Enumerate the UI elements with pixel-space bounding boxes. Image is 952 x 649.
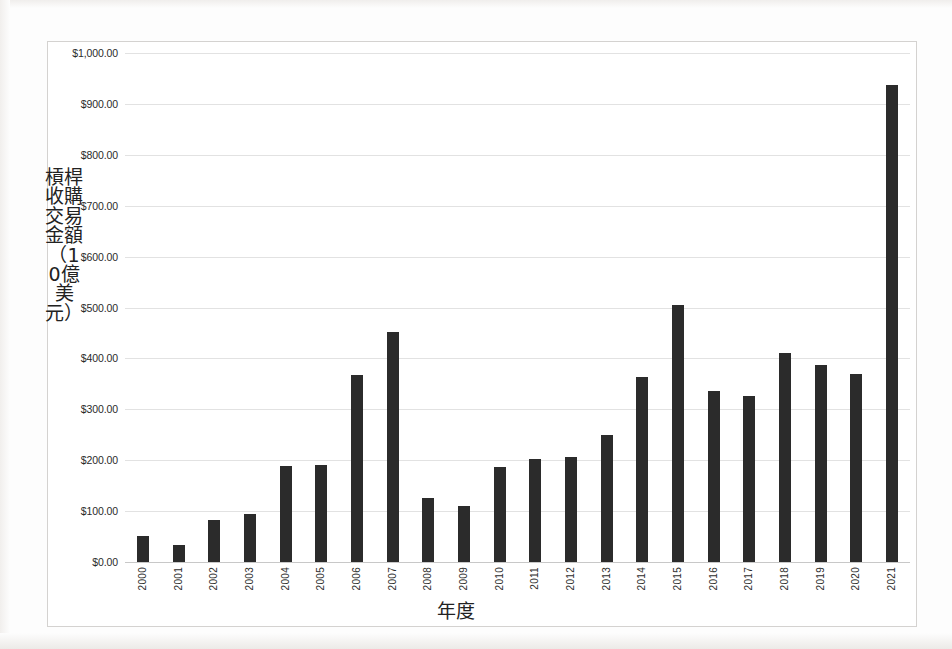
x-axis-tick-label: 2020: [850, 567, 861, 590]
bar-2013: [601, 435, 613, 562]
gridline: [125, 409, 910, 410]
y-axis-tick-label: $400.00: [81, 352, 118, 364]
x-axis-tick-label: 2000: [137, 567, 148, 590]
bar-2005: [315, 465, 327, 562]
gridline: [125, 460, 910, 461]
x-axis-tick-label: 2016: [708, 567, 719, 590]
x-axis-tick-label: 2001: [173, 567, 184, 590]
y-axis-tick-label: $900.00: [81, 98, 118, 110]
bar-2006: [351, 375, 363, 562]
gridline: [125, 358, 910, 359]
gridline: [125, 308, 910, 309]
gridline: [125, 511, 910, 512]
gridline: [125, 257, 910, 258]
x-axis-title: 年度: [0, 596, 952, 623]
x-axis-tick-label: 2014: [636, 567, 647, 590]
gridline: [125, 206, 910, 207]
scan-edge-top: [0, 0, 952, 8]
x-axis-tick-label: 2005: [315, 567, 326, 590]
x-axis-tick-label: 2009: [458, 567, 469, 590]
x-axis-tick-label: 2017: [743, 567, 754, 590]
y-axis-tick-label: $600.00: [81, 251, 118, 263]
bar-2004: [280, 466, 292, 562]
y-axis-tick-label: $500.00: [81, 302, 118, 314]
x-axis-title-text: 年度: [437, 600, 475, 622]
bar-2019: [815, 365, 827, 562]
bar-2014: [636, 377, 648, 562]
bar-2002: [208, 520, 220, 562]
scan-edge-left: [0, 0, 10, 649]
y-axis-tick-label: $800.00: [81, 149, 118, 161]
plot-area: [125, 53, 910, 562]
x-axis-tick-label: 2012: [565, 567, 576, 590]
gridline: [125, 53, 910, 54]
gridline: [125, 104, 910, 105]
bar-2010: [494, 467, 506, 562]
gridline: [125, 155, 910, 156]
x-axis-tick-label: 2004: [280, 567, 291, 590]
x-axis-tick-label: 2002: [208, 567, 219, 590]
x-axis-tick-label: 2021: [886, 567, 897, 590]
gridline: [125, 562, 910, 563]
y-axis-tick-label: $1,000.00: [72, 47, 118, 59]
bar-2020: [850, 374, 862, 562]
page-root: 槓桿收購交易金額（10億美元） $0.00$100.00$200.00$300.…: [0, 0, 952, 649]
bar-2003: [244, 514, 256, 562]
bar-2008: [422, 498, 434, 562]
y-axis-tick-label: $100.00: [81, 505, 118, 517]
bar-2016: [708, 391, 720, 562]
bar-2018: [779, 353, 791, 562]
bar-2000: [137, 536, 149, 562]
bar-2009: [458, 506, 470, 562]
x-axis-tick-label: 2018: [779, 567, 790, 590]
x-axis-tick-label: 2019: [815, 567, 826, 590]
scan-edge-bottom: [0, 633, 952, 649]
x-axis-tick-label: 2007: [387, 567, 398, 590]
y-axis-tick-labels: $0.00$100.00$200.00$300.00$400.00$500.00…: [60, 0, 118, 649]
x-axis-tick-label: 2003: [244, 567, 255, 590]
y-axis-tick-label: $200.00: [81, 454, 118, 466]
x-axis-tick-label: 2013: [601, 567, 612, 590]
y-axis-tick-label: $700.00: [81, 200, 118, 212]
x-axis-tick-label: 2015: [672, 567, 683, 590]
bar-2017: [743, 396, 755, 562]
x-axis-tick-label: 2008: [422, 567, 433, 590]
bar-2011: [529, 459, 541, 562]
x-axis-tick-label: 2010: [494, 567, 505, 590]
y-axis-tick-label: $300.00: [81, 403, 118, 415]
bar-2021: [886, 85, 898, 562]
x-axis-tick-label: 2006: [351, 567, 362, 590]
bar-2015: [672, 305, 684, 562]
y-axis-tick-label: $0.00: [92, 556, 118, 568]
bar-2007: [387, 332, 399, 562]
x-axis-tick-label: 2011: [529, 567, 540, 590]
bar-2012: [565, 457, 577, 562]
bar-2001: [173, 545, 185, 562]
